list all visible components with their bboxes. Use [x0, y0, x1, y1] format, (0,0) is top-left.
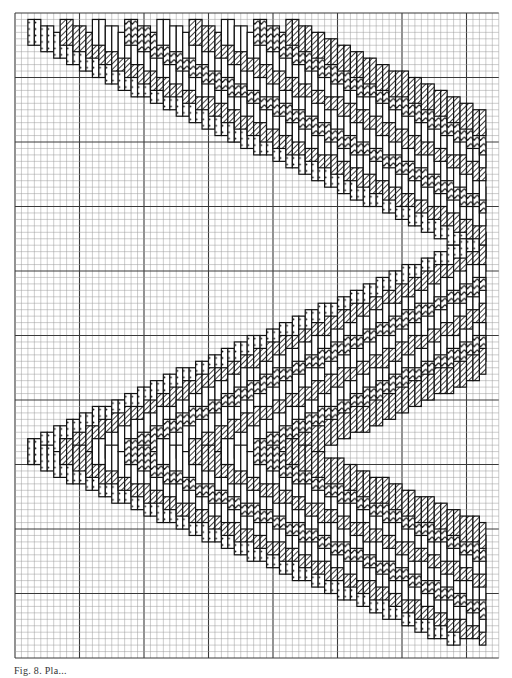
stitch-hatch: [479, 110, 485, 136]
stitch-dots: [28, 439, 34, 465]
stitch-hatch: [408, 490, 414, 516]
stitch-outline: [157, 19, 163, 45]
stitch-hatch: [215, 452, 221, 478]
stitch-hatch: [286, 439, 292, 465]
stitch-dots: [54, 426, 60, 452]
stitch-outline: [247, 452, 253, 478]
stitch-hatch: [389, 71, 395, 97]
stitch-hatch: [196, 19, 202, 45]
stitch-hatch: [396, 387, 402, 413]
stitch-hatch: [209, 445, 215, 471]
stitch-outline: [118, 426, 124, 452]
stitch-outline: [163, 19, 169, 45]
stitch-hatch: [292, 439, 298, 465]
stitch-hatch: [447, 510, 453, 536]
stitch-hatch: [60, 439, 66, 465]
stitch-hatch: [389, 484, 395, 510]
stitch-zigzag: [150, 426, 156, 452]
stitch-outline: [157, 439, 163, 465]
stitch-outline: [241, 26, 247, 52]
stitch-hatch: [202, 26, 208, 52]
stitch-dots: [41, 445, 47, 471]
stitch-hatch: [383, 65, 389, 91]
stitch-hatch: [421, 84, 427, 110]
stitch-hatch: [428, 497, 434, 523]
stitch-hatch: [202, 445, 208, 471]
stitch-hatch: [467, 103, 473, 129]
stitch-outline: [183, 452, 189, 478]
stitch-dots: [54, 32, 60, 58]
stitch-hatch: [331, 419, 337, 445]
stitch-outline: [176, 26, 182, 52]
stitch-dots: [28, 19, 34, 45]
stitch-outline: [234, 26, 240, 52]
stitch-hatch: [428, 84, 434, 110]
stitch-hatch: [325, 39, 331, 65]
stitch-hatch: [415, 381, 421, 407]
stitch-hatch: [370, 477, 376, 503]
stitch-hatch: [370, 58, 376, 84]
stitch-outline: [247, 32, 253, 58]
stitch-hatch: [292, 19, 298, 45]
stitch-hatch: [415, 497, 421, 523]
stitch-hatch: [396, 484, 402, 510]
stitch-hatch: [299, 26, 305, 52]
stitch-zigzag: [125, 439, 131, 465]
stitch-hatch: [318, 426, 324, 452]
stitch-outline: [183, 426, 189, 452]
stitch-zigzag: [279, 426, 285, 452]
stitch-hatch: [434, 503, 440, 529]
stitch-outline: [176, 445, 182, 471]
stitch-dots: [34, 19, 40, 45]
stitch-zigzag: [125, 19, 131, 45]
stitch-hatch: [80, 26, 86, 52]
stitch-hatch: [408, 78, 414, 104]
stitch-hatch: [338, 458, 344, 484]
stitch-hatch: [441, 503, 447, 529]
stitch-hatch: [344, 45, 350, 71]
stitch-hatch: [338, 45, 344, 71]
stitch-outline: [92, 439, 98, 465]
stitch-hatch: [331, 458, 337, 484]
stitch-zigzag: [260, 19, 266, 45]
stitch-hatch: [73, 26, 79, 52]
stitch-hatch: [428, 374, 434, 400]
stitch-hatch: [331, 39, 337, 65]
stitch-hatch: [305, 26, 311, 52]
stitch-outline: [241, 445, 247, 471]
stitch-dots: [47, 445, 53, 471]
stitch-hatch: [383, 477, 389, 503]
stitch-outline: [92, 19, 98, 45]
stitch-hatch: [363, 471, 369, 497]
stitch-hatch: [421, 374, 427, 400]
stitch-hatch: [350, 52, 356, 78]
stitch-hatch: [454, 97, 460, 123]
stitch-hatch: [454, 510, 460, 536]
stitch-outline: [105, 445, 111, 471]
stitch-hatch: [286, 19, 292, 45]
stitch-hatch: [376, 477, 382, 503]
stitch-hatch: [209, 26, 215, 52]
stitch-hatch: [312, 32, 318, 58]
stitch-outline: [163, 439, 169, 465]
stitch-hatch: [479, 348, 485, 374]
bargello-chart: [0, 0, 512, 660]
stitch-hatch: [473, 516, 479, 542]
stitch-hatch: [447, 368, 453, 394]
stitch-hatch: [460, 103, 466, 129]
stitch-hatch: [189, 19, 195, 45]
stitch-hatch: [350, 465, 356, 491]
stitch-outline: [112, 26, 118, 52]
stitch-dots: [47, 26, 53, 52]
stitch-hatch: [305, 445, 311, 471]
stitch-hatch: [357, 52, 363, 78]
stitch-hatch: [344, 465, 350, 491]
stitch-hatch: [402, 387, 408, 413]
stitch-bands: [28, 19, 486, 645]
stitch-hatch: [408, 381, 414, 407]
stitch-hatch: [460, 361, 466, 387]
stitch-outline: [118, 452, 124, 478]
stitch-hatch: [73, 445, 79, 471]
stitch-dots: [34, 439, 40, 465]
stitch-hatch: [196, 439, 202, 465]
